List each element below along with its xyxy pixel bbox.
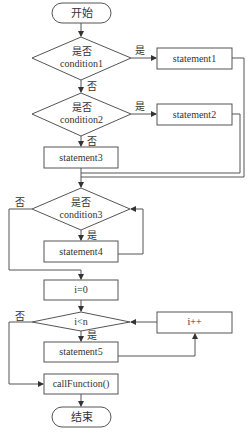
start-label: 开始 <box>52 7 111 19</box>
edge-cond4-no-call <box>9 322 43 384</box>
cond4-yes-label: 是 <box>87 330 97 341</box>
condition3-line2: condition3 <box>32 209 130 221</box>
edge-stmt5-incr <box>118 334 195 356</box>
condition1-line2: condition1 <box>32 58 131 70</box>
cond1-yes-label: 是 <box>135 45 145 56</box>
cond1-no-label: 否 <box>87 81 97 92</box>
increment-label: i++ <box>157 316 232 328</box>
condition2-line2: condition2 <box>32 114 131 126</box>
cond4-no-label: 否 <box>15 311 25 322</box>
statement2-label: statement2 <box>157 109 232 121</box>
cond2-no-label: 否 <box>87 136 97 147</box>
condition1-line1: 是否 <box>32 46 131 58</box>
statement5-label: statement5 <box>44 346 118 358</box>
cond3-yes-label: 是 <box>87 230 97 241</box>
init-label: i=0 <box>44 284 118 296</box>
end-label: 结束 <box>52 411 111 423</box>
cond2-yes-label: 是 <box>135 101 145 112</box>
call-function-label: callFunction() <box>44 378 118 390</box>
condition2-line1: 是否 <box>32 102 131 114</box>
cond3-no-label: 否 <box>15 197 25 208</box>
statement3-label: statement3 <box>44 152 118 164</box>
condition4-label: i<n <box>32 316 130 328</box>
statement1-label: statement1 <box>157 53 232 65</box>
statement4-label: statement4 <box>44 246 118 258</box>
condition3-line1: 是否 <box>32 197 130 209</box>
